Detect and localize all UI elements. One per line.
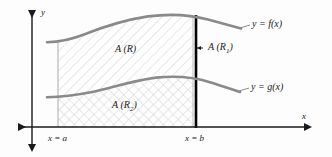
boundary-label-left: x = a — [48, 134, 67, 143]
region-lower-label: A (R2) — [112, 100, 137, 113]
region-upper-label: A (R) — [115, 44, 136, 54]
y-axis-label: y — [41, 8, 45, 17]
slice-area-label-paren: ) — [229, 41, 232, 52]
boundary-label-right: x = b — [185, 134, 204, 143]
region-lower-label-paren: ) — [133, 99, 136, 110]
region-lower-label-text: A (R — [112, 99, 130, 110]
slice-area-label: A (R1) — [208, 42, 233, 55]
area-between-curves-figure: y x y = f(x) y = g(x) A (R) A (R2) A (R1… — [0, 0, 332, 157]
slice-area-label-text: A (R — [208, 41, 226, 52]
g-label-leader — [239, 88, 249, 91]
x-axis-label: x — [302, 112, 306, 121]
curve-g-label: y = g(x) — [251, 82, 283, 92]
f-label-leader — [240, 25, 250, 28]
curve-f-label: y = f(x) — [252, 19, 282, 29]
